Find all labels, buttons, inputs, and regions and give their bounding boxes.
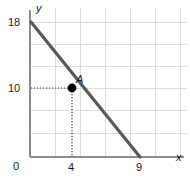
plot-canvas [0, 0, 190, 180]
grid-lines [30, 8, 187, 157]
origin-label: 0 [13, 161, 19, 172]
guide-lines [31, 88, 72, 156]
y-tick-label-10: 10 [8, 83, 20, 94]
axis-lines [30, 10, 184, 157]
y-tick-label-18: 18 [8, 17, 20, 28]
data-line [31, 22, 140, 157]
x-tick-label-9: 9 [136, 162, 142, 173]
x-axis-label: x [176, 152, 182, 163]
y-axis-label: y [36, 3, 42, 14]
x-tick-label-4: 4 [68, 162, 74, 173]
line-graph-figure: 18 10 4 9 0 y x A [0, 0, 190, 180]
point-a-label: A [76, 74, 83, 85]
